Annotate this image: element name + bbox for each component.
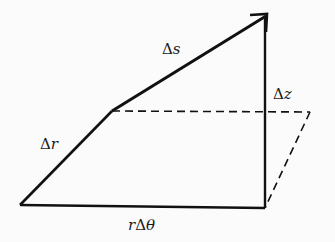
dashed-top-edge [112, 111, 310, 112]
delta-s-vector [112, 16, 266, 111]
r-delta-theta-line [20, 205, 265, 208]
delta-r-label: Δr [40, 135, 59, 153]
displacement-diagram: Δs Δz Δr rΔθ [0, 0, 335, 242]
r-delta-theta-label: rΔθ [128, 216, 155, 234]
dashed-right-edge [265, 112, 310, 208]
delta-s-label: Δs [162, 40, 181, 58]
delta-r-line [20, 111, 112, 205]
delta-z-label: Δz [273, 85, 292, 103]
